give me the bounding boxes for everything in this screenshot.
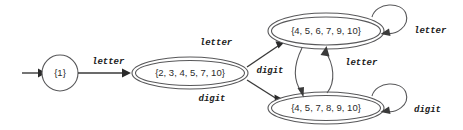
edge-label-t-letter-loop: letter — [414, 26, 447, 36]
edge-label-t-digit-cross: digit — [256, 66, 283, 76]
transition-t-letter-cross — [321, 46, 333, 93]
state-label-start-state: {1} — [54, 67, 66, 78]
state-label-state-4578910: {4, 5, 7, 8, 9, 10} — [291, 102, 361, 113]
edge-label-t-letter-up: letter — [200, 38, 233, 48]
transition-t-start-letter — [78, 69, 131, 78]
state-label-state-4567910: {4, 5, 6, 7, 9, 10} — [291, 25, 361, 36]
state-label-state-2345710: {2, 3, 4, 5, 7, 10} — [155, 67, 225, 78]
edge-label-t-digit-down: digit — [198, 94, 225, 104]
edge-label-t-letter-cross: letter — [345, 58, 378, 68]
edge-label-t-start-letter: letter — [92, 57, 125, 67]
state-state-4578910[interactable]: {4, 5, 7, 8, 9, 10} — [268, 92, 384, 124]
dfa-diagram: {1} letter {2, 3, 4, 5, 7, 10} letter di… — [0, 0, 463, 130]
state-state-4567910[interactable]: {4, 5, 6, 7, 9, 10} — [268, 13, 384, 49]
edge-label-t-digit-loop: digit — [414, 105, 441, 115]
transition-t-letter-up — [247, 41, 286, 67]
state-start-state[interactable]: {1} — [42, 55, 78, 91]
state-state-2345710[interactable]: {2, 3, 4, 5, 7, 10} — [132, 57, 248, 89]
transition-t-digit-cross — [295, 48, 304, 98]
state-diagram-canvas: {1} letter {2, 3, 4, 5, 7, 10} letter di… — [0, 0, 463, 130]
